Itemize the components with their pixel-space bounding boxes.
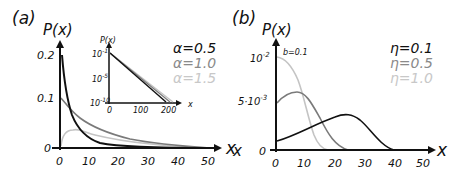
panel-a-xtick: 40 xyxy=(171,155,185,168)
panel-b-ylabel: P(x) xyxy=(262,21,292,39)
panel-a-label: (a) xyxy=(12,8,36,28)
legend-alpha-1.0: α=1.0 xyxy=(173,55,216,71)
panel-b-xtick: 10 xyxy=(297,157,311,170)
panel-b-xlabel: x xyxy=(436,140,448,160)
panel-b-xtick: 40 xyxy=(388,157,402,170)
panel-b: (b) P(x) b=0.1 x x 10-2 5·10-3 0 0 10 20… xyxy=(232,8,448,170)
legend-eta-0.5: η=0.5 xyxy=(390,55,433,71)
legend-eta-1.0: η=1.0 xyxy=(390,70,433,86)
panel-a-xtick: 30 xyxy=(141,155,155,168)
panel-a-ytick: 0 xyxy=(44,142,51,155)
panel-a-ytick: 0.1 xyxy=(37,92,55,105)
legend-alpha-1.5: α=1.5 xyxy=(173,70,216,86)
panel-a-xtick: 50 xyxy=(201,155,215,168)
panel-b-ytick: 10-2 xyxy=(250,51,270,64)
panel-a-xtick: 10 xyxy=(82,155,96,168)
panel-a-legend: α=0.5 α=1.0 α=1.5 xyxy=(173,40,216,86)
inset-curve-alpha-0.5 xyxy=(110,53,166,102)
panel-b-ytick: 0 xyxy=(259,145,266,158)
inset-ytick: 10-1 xyxy=(92,47,108,59)
inset-ytick: 10-5 xyxy=(92,72,108,84)
panel-b-ytick: 5·10-3 xyxy=(238,94,267,107)
inset-xtick: 100 xyxy=(133,106,148,115)
legend-alpha-0.5: α=0.5 xyxy=(173,40,216,56)
panel-a-xtick: 0 xyxy=(56,155,63,168)
panel-b-xtick: 0 xyxy=(272,157,279,170)
inset-xlabel: x xyxy=(187,100,193,109)
panel-b-xtick: 30 xyxy=(358,157,372,170)
legend-eta-0.1: η=0.1 xyxy=(390,40,433,56)
panel-b-annotation: b=0.1 xyxy=(283,48,308,57)
panel-b-xtick: 50 xyxy=(416,157,430,170)
panel-b-xtick: 20 xyxy=(328,157,342,170)
curve-eta-0.1 xyxy=(277,115,394,150)
panel-b-legend: η=0.1 η=0.5 η=1.0 xyxy=(390,40,433,86)
inset-xtick: 0 xyxy=(107,106,112,115)
panel-a: (a) P(x) x 0.2 0.1 0 0 10 20 30 40 50 P(… xyxy=(12,8,237,168)
curve-eta-1.0 xyxy=(277,57,328,150)
inset-xtick: 200 xyxy=(161,106,176,115)
inset-ylabel: P(x) xyxy=(100,36,116,45)
panel-b-label: (b) xyxy=(232,8,256,28)
curve-eta-0.5 xyxy=(277,92,348,150)
panel-a-xtick: 20 xyxy=(111,155,125,168)
figure: (a) P(x) x 0.2 0.1 0 0 10 20 30 40 50 P(… xyxy=(0,0,457,176)
panel-b-left-x-label: x xyxy=(232,142,242,160)
panel-a-ytick: 0.2 xyxy=(37,49,55,62)
panel-a-ylabel: P(x) xyxy=(43,21,73,39)
